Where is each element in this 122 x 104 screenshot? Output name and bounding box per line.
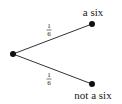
probability-tree-diagram: 1 6 1 6 a six not a six xyxy=(0,0,122,104)
outcome-label-a-six: a six xyxy=(83,6,104,18)
root-node xyxy=(10,51,16,57)
fraction-denominator: 6 xyxy=(47,79,51,87)
fraction-numerator: 1 xyxy=(47,22,51,30)
outcome-node-lower xyxy=(89,81,95,87)
fraction-numerator: 1 xyxy=(47,71,51,79)
fraction-denominator: 6 xyxy=(47,30,51,38)
outcome-node-upper xyxy=(89,21,95,27)
branch-line-upper xyxy=(13,24,92,54)
probability-fraction-upper: 1 6 xyxy=(47,22,52,38)
branch-line-lower xyxy=(13,54,92,84)
outcome-label-not-a-six: not a six xyxy=(74,89,112,101)
probability-fraction-lower: 1 6 xyxy=(47,71,52,87)
